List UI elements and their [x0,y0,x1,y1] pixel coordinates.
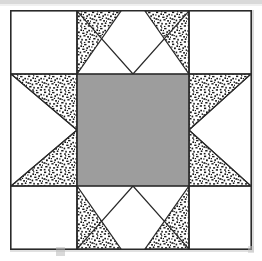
scan-artifact-mark [56,247,65,256]
scan-edge-shadow-right [252,10,254,250]
quilt-block-figure [0,0,262,261]
quilt-block-drawing [11,11,251,249]
center-square [77,74,189,186]
quilt-block [10,10,252,250]
scan-edge-shadow-bottom [10,250,254,252]
scan-band-top-light [0,4,262,6]
scan-artifact-mark-2 [248,246,254,253]
